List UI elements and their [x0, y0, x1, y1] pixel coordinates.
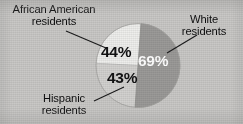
label-african-american: African American residents: [2, 3, 106, 28]
label-african-american-line2: residents: [2, 15, 106, 27]
value-hispanic: 43%: [107, 70, 137, 86]
label-white-line2: residents: [167, 25, 241, 37]
value-white: 69%: [138, 53, 168, 69]
label-african-american-line1: African American: [13, 3, 96, 15]
label-white-line1: White: [190, 13, 218, 25]
label-hispanic-line2: residents: [22, 104, 106, 116]
value-african-american: 44%: [101, 44, 131, 60]
chart-figure: African American residents White residen…: [0, 0, 243, 124]
label-hispanic: Hispanic residents: [22, 92, 106, 117]
label-white: White residents: [167, 13, 241, 38]
african-american-leader-line: [66, 31, 106, 48]
label-hispanic-line1: Hispanic: [43, 92, 85, 104]
